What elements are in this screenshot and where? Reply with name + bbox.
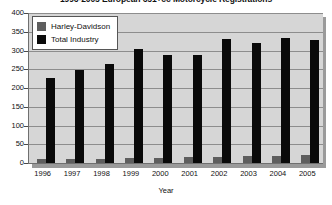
bar-harley-davidson <box>213 157 222 163</box>
bar-total-industry <box>252 43 261 163</box>
bar-total-industry <box>310 40 319 163</box>
bar-total-industry <box>134 49 143 163</box>
bar-total-industry <box>281 38 290 163</box>
bar-total-industry <box>163 55 172 163</box>
y-tick-mark <box>24 51 28 52</box>
legend-swatch-icon-total-industry <box>37 35 46 44</box>
y-tick-mark <box>24 144 28 145</box>
bar-group <box>243 13 261 163</box>
bar-harley-davidson <box>272 156 281 163</box>
bar-harley-davidson <box>154 158 163 163</box>
bar-harley-davidson <box>301 155 310 163</box>
bar-total-industry <box>105 64 114 163</box>
bar-group <box>154 13 172 163</box>
bar-group <box>272 13 290 163</box>
y-tick-mark <box>24 32 28 33</box>
y-tick-label: 350 <box>0 28 24 36</box>
x-axis-title: Year <box>0 186 332 195</box>
bar-harley-davidson <box>37 159 46 163</box>
y-tick-mark <box>24 69 28 70</box>
y-tick-mark <box>24 163 28 164</box>
y-tick-label: 300 <box>0 47 24 55</box>
bar-group <box>301 13 319 163</box>
y-tick-mark <box>24 107 28 108</box>
bar-chart: 1996-2005 European 651+cc Motorcycle Reg… <box>0 0 332 205</box>
y-tick-label: 100 <box>0 122 24 130</box>
y-tick-label: 0 <box>0 159 24 167</box>
legend-label-harley-davidson: Harley-Davidson <box>51 23 110 31</box>
legend-item-total-industry: Total Industry <box>37 33 110 46</box>
legend-swatch-icon-harley-davidson <box>37 22 46 31</box>
bar-group <box>184 13 202 163</box>
bar-group <box>213 13 231 163</box>
chart-legend: Harley-Davidson Total Industry <box>32 16 118 50</box>
chart-title: 1996-2005 European 651+cc Motorcycle Reg… <box>0 0 332 4</box>
bar-harley-davidson <box>96 159 105 164</box>
y-tick-label: 200 <box>0 84 24 92</box>
legend-label-total-industry: Total Industry <box>51 36 99 44</box>
bar-harley-davidson <box>184 157 193 163</box>
y-tick-mark <box>24 88 28 89</box>
y-tick-label: 250 <box>0 65 24 73</box>
y-tick-mark <box>24 126 28 127</box>
bar-total-industry <box>222 39 231 163</box>
bar-total-industry <box>193 55 202 163</box>
plot-shadow-bottom <box>32 164 326 168</box>
bar-harley-davidson <box>125 158 134 163</box>
y-tick-mark <box>24 13 28 14</box>
y-tick-label: 400 <box>0 9 24 17</box>
legend-item-harley-davidson: Harley-Davidson <box>37 20 110 33</box>
bar-harley-davidson <box>66 159 75 163</box>
y-tick-label: 50 <box>0 140 24 148</box>
bar-total-industry <box>46 78 55 164</box>
bar-total-industry <box>75 70 84 163</box>
bar-harley-davidson <box>243 156 252 163</box>
bar-group <box>125 13 143 163</box>
y-tick-label: 150 <box>0 103 24 111</box>
x-tick-label: 2005 <box>287 170 327 178</box>
